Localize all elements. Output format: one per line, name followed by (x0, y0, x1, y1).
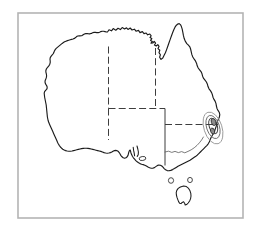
map-figure: Map of Australia Outline map of Australi… (0, 0, 260, 244)
kangaroo-island (139, 156, 146, 161)
tasmania (176, 186, 191, 205)
king-island (168, 178, 173, 184)
australia-map-svg (0, 0, 260, 244)
flinders-island (188, 177, 193, 182)
